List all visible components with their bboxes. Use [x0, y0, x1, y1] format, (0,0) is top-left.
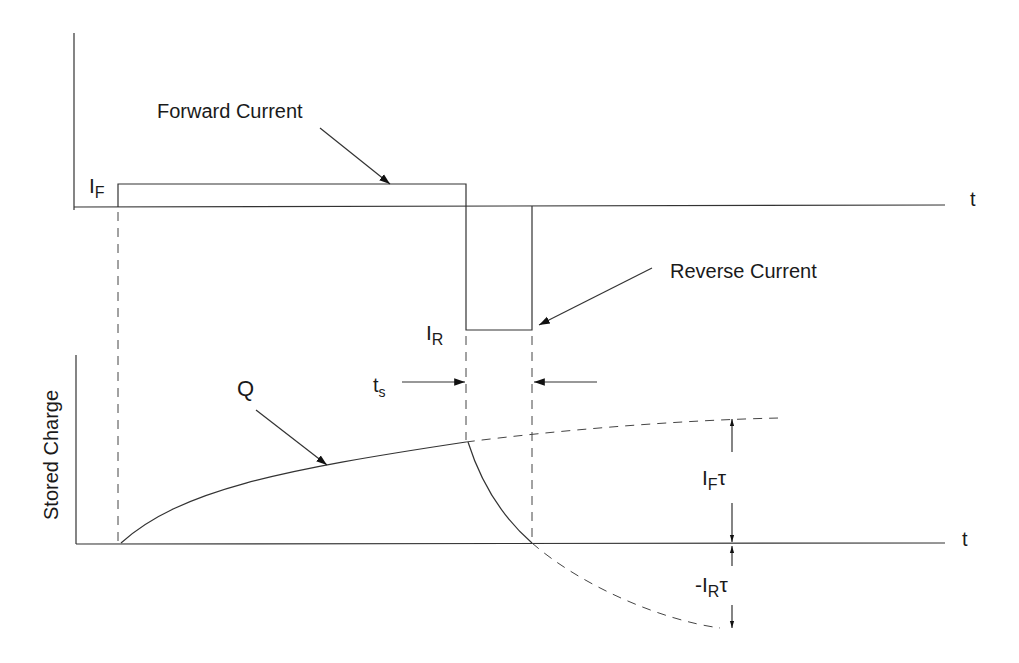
iftau-label: IFτ: [702, 466, 727, 493]
reverse-current-level-label: IR: [426, 321, 443, 348]
storage-time-label: ts: [373, 374, 386, 400]
forward-current-label: Forward Current: [157, 100, 303, 122]
charge-buildup-curve: [121, 442, 466, 543]
time-axis-label-top: t: [970, 188, 976, 210]
stored-charge-axis-label: Stored Charge: [40, 390, 62, 520]
irtau-label: -IRτ: [695, 573, 728, 600]
charge-asymptote-dashed: [466, 418, 780, 442]
charge-q-label: Q: [237, 376, 254, 401]
reverse-current-label: Reverse Current: [670, 260, 817, 282]
forward-current-level-label: IF: [89, 174, 105, 201]
current-time-axis: [74, 205, 945, 207]
charge-decay-extrapolated: [532, 543, 720, 628]
reverse-current-arrow: [539, 268, 652, 325]
forward-current-arrow: [320, 128, 390, 184]
charge-q-arrow: [256, 410, 327, 465]
charge-decay-curve: [468, 442, 532, 543]
diode-recovery-diagram: t IF Forward Current Reverse Current IR …: [0, 0, 1019, 663]
time-axis-label-bottom: t: [962, 528, 968, 550]
charge-time-axis: [76, 543, 945, 544]
